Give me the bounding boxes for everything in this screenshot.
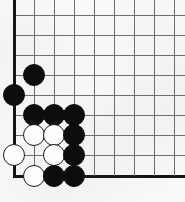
black-stone[interactable] [43,104,65,126]
white-stone[interactable] [23,124,45,146]
white-stone[interactable] [43,124,65,146]
black-stone[interactable] [23,104,45,126]
black-stone[interactable] [43,165,65,187]
go-board-diagram [0,0,185,202]
black-stone[interactable] [63,104,85,126]
stone-layer [0,0,185,202]
black-stone[interactable] [63,144,85,166]
black-stone[interactable] [63,165,85,187]
white-stone[interactable] [43,144,65,166]
black-stone[interactable] [3,84,25,106]
white-stone[interactable] [3,144,25,166]
white-stone[interactable] [23,165,45,187]
black-stone[interactable] [63,124,85,146]
black-stone[interactable] [23,64,45,86]
